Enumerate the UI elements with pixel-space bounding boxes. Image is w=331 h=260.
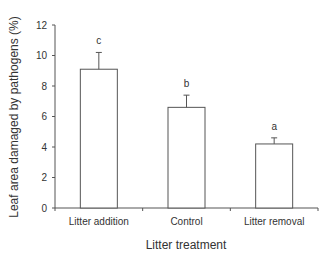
y-axis: 024681012	[36, 20, 55, 214]
x-category-label: Litter removal	[244, 216, 305, 227]
y-tick-label: 0	[41, 203, 47, 214]
y-tick-label: 6	[41, 111, 47, 122]
bar	[168, 107, 205, 208]
bar	[80, 69, 117, 208]
significance-letter: a	[271, 121, 277, 132]
x-category-label: Control	[170, 216, 202, 227]
y-tick-label: 2	[41, 172, 47, 183]
significance-letter: c	[96, 35, 101, 46]
significance-letter: b	[184, 78, 190, 89]
y-tick-label: 10	[36, 50, 48, 61]
bar	[256, 144, 293, 208]
bar-chart: 024681012 Litter additionControlLitter r…	[0, 0, 331, 260]
x-axis-label: Litter treatment	[146, 238, 227, 252]
bars: cba	[80, 35, 292, 208]
y-tick-label: 12	[36, 20, 48, 31]
y-tick-label: 8	[41, 81, 47, 92]
y-tick-label: 4	[41, 142, 47, 153]
x-axis: Litter additionControlLitter removal	[55, 208, 318, 227]
y-axis-label: Leaf area damaged by pathogens (%)	[7, 16, 21, 217]
x-category-label: Litter addition	[69, 216, 129, 227]
